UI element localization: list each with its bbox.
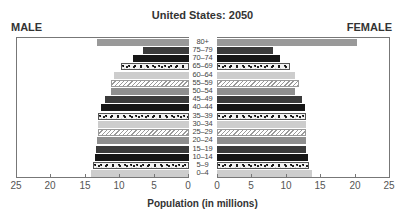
age-group-label: 20–24	[188, 136, 217, 144]
female-bar	[217, 47, 273, 54]
male-bar	[98, 113, 189, 120]
x-tick-label-left: 25	[6, 180, 26, 191]
x-tick-right	[355, 174, 356, 178]
x-tick-label-left: 0	[178, 180, 198, 191]
female-bar	[217, 96, 302, 103]
female-bar	[217, 72, 295, 79]
male-label: MALE	[11, 21, 42, 33]
female-bar	[217, 137, 306, 144]
male-panel	[16, 37, 189, 178]
female-bar	[217, 55, 280, 62]
x-tick-label-right: 15	[310, 180, 330, 191]
x-tick-right	[389, 174, 390, 178]
male-bar	[111, 88, 189, 95]
age-group-label: 40–44	[188, 103, 217, 111]
male-bar	[95, 154, 189, 161]
female-bar	[217, 88, 295, 95]
x-axis-title: Population (in millions)	[0, 198, 405, 209]
x-tick-right	[251, 174, 252, 178]
age-group-label: 65–69	[188, 62, 217, 70]
male-bar	[98, 129, 189, 136]
female-bar	[217, 146, 306, 153]
x-tick-label-right: 10	[276, 180, 296, 191]
x-axis-left	[16, 177, 188, 178]
x-tick-left	[16, 174, 17, 178]
male-bar	[143, 47, 189, 54]
male-bar	[98, 121, 189, 128]
female-bar	[217, 170, 312, 177]
male-bar	[114, 72, 189, 79]
x-tick-right	[320, 174, 321, 178]
female-bar	[217, 80, 299, 87]
male-bar	[97, 39, 189, 46]
male-bar	[121, 63, 189, 70]
male-bar	[105, 96, 189, 103]
x-tick-label-left: 5	[144, 180, 164, 191]
female-bar	[217, 121, 306, 128]
x-axis-right	[217, 177, 390, 178]
x-tick-label-right: 5	[241, 180, 261, 191]
chart-title: United States: 2050	[0, 9, 405, 21]
x-tick-left	[50, 174, 51, 178]
x-tick-label-right: 0	[207, 180, 227, 191]
age-group-label: 0–4	[188, 169, 217, 177]
x-tick-label-left: 10	[109, 180, 129, 191]
x-tick-right	[217, 174, 218, 178]
female-bar	[217, 162, 309, 169]
x-tick-right	[286, 174, 287, 178]
x-tick-left	[154, 174, 155, 178]
female-bar	[217, 113, 306, 120]
male-bar	[97, 137, 189, 144]
male-bar	[133, 55, 189, 62]
female-panel	[217, 37, 390, 178]
male-bar	[101, 104, 189, 111]
x-tick-left	[85, 174, 86, 178]
male-bar	[111, 80, 189, 87]
age-group-labels: 80+75–7970–7465–6960–6455–5950–5445–4940…	[188, 37, 217, 177]
female-label: FEMALE	[347, 21, 392, 33]
female-bar	[217, 63, 290, 70]
x-tick-label-right: 25	[379, 180, 399, 191]
male-bar	[91, 170, 189, 177]
x-tick-left	[188, 174, 189, 178]
female-bar	[217, 129, 306, 136]
x-tick-left	[119, 174, 120, 178]
x-tick-label-right: 20	[345, 180, 365, 191]
male-bar	[96, 146, 189, 153]
male-bar	[93, 162, 189, 169]
x-tick-label-left: 20	[40, 180, 60, 191]
female-bar	[217, 104, 305, 111]
female-bar	[217, 154, 308, 161]
female-bar	[217, 39, 357, 46]
x-tick-label-left: 15	[75, 180, 95, 191]
